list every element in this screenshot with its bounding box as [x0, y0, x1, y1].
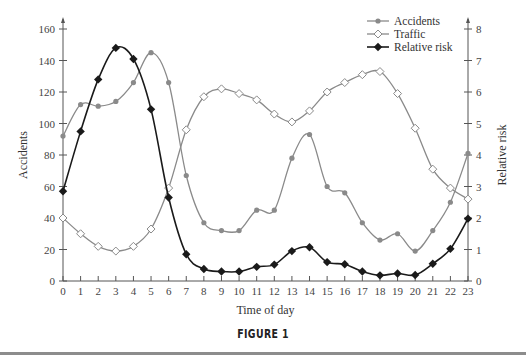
- x-tick-label: 7: [184, 285, 190, 297]
- x-tick-label: 4: [131, 285, 137, 297]
- left-y-tick-label: 60: [44, 181, 56, 193]
- x-tick-label: 0: [60, 285, 66, 297]
- figure-caption: FIGURE 1: [58, 327, 468, 341]
- risk-marker-icon: [59, 187, 67, 195]
- traffic-marker-icon: [147, 225, 155, 233]
- axes: 0123456789101112131415161718192021222302…: [39, 17, 483, 297]
- risk-marker-icon: [305, 243, 313, 251]
- risk-marker-icon: [411, 271, 419, 279]
- accidents-marker-icon: [289, 156, 294, 161]
- accidents-marker-icon: [325, 184, 330, 189]
- x-tick-label: 3: [113, 285, 119, 297]
- accidents-marker-icon: [113, 99, 118, 104]
- traffic-marker-icon: [288, 118, 296, 126]
- risk-marker-icon: [393, 269, 401, 277]
- x-tick-label: 9: [219, 285, 225, 297]
- traffic-marker-icon: [411, 124, 419, 132]
- risk-marker-icon: [129, 55, 137, 63]
- accidents-marker-icon: [254, 208, 259, 213]
- traffic-marker-icon: [464, 195, 472, 203]
- accidents-marker-icon: [395, 231, 400, 236]
- legend-label: Traffic: [394, 28, 425, 40]
- series-line: [63, 47, 468, 276]
- x-tick-label: 18: [374, 285, 386, 297]
- traffic-marker-icon: [129, 242, 137, 250]
- x-tick-label: 16: [339, 285, 351, 297]
- left-y-tick-label: 80: [44, 149, 56, 161]
- accidents-marker-icon: [342, 190, 347, 195]
- series-traffic: [59, 68, 472, 256]
- traffic-marker-icon: [182, 126, 190, 134]
- right-y-tick-label: 7: [476, 55, 482, 67]
- traffic-marker-icon: [358, 71, 366, 79]
- traffic-marker-icon: [429, 165, 437, 173]
- risk-marker-icon: [147, 105, 155, 113]
- x-tick-label: 8: [201, 285, 207, 297]
- accidents-marker-icon: [78, 102, 83, 107]
- risk-marker-icon: [464, 214, 472, 222]
- traffic-marker-icon: [217, 85, 225, 93]
- left-y-tick-label: 40: [44, 212, 56, 224]
- series-line: [63, 53, 468, 251]
- x-tick-label: 2: [95, 285, 101, 297]
- accidents-marker-icon: [430, 228, 435, 233]
- risk-marker-icon: [358, 267, 366, 275]
- traffic-marker-icon: [112, 247, 120, 255]
- risk-marker-icon: [182, 250, 190, 258]
- series-accidents: [60, 50, 470, 254]
- accidents-marker-icon: [413, 248, 418, 253]
- risk-marker-icon: [76, 127, 84, 135]
- right-y-tick-label: 4: [476, 149, 482, 161]
- risk-marker-icon: [235, 267, 243, 275]
- x-tick-label: 12: [269, 285, 280, 297]
- right-axis-arrow-icon: [466, 17, 470, 23]
- right-y-tick-label: 1: [476, 244, 482, 256]
- legend: AccidentsTrafficRelative risk: [367, 15, 453, 53]
- x-tick-label: 21: [427, 285, 438, 297]
- traffic-marker-icon: [253, 96, 261, 104]
- risk-marker-icon: [374, 43, 382, 51]
- accidents-marker-icon: [307, 132, 312, 137]
- x-tick-label: 1: [78, 285, 84, 297]
- series-relative-risk: [59, 44, 472, 280]
- x-tick-label: 17: [357, 285, 369, 297]
- legend-label: Relative risk: [394, 41, 453, 53]
- x-axis-title: Time of day: [236, 303, 294, 317]
- right-y-axis-title: Relative risk: [495, 125, 509, 186]
- risk-marker-icon: [200, 265, 208, 273]
- left-y-tick-label: 140: [39, 55, 56, 67]
- left-y-axis-title: Accidents: [16, 131, 30, 179]
- left-y-tick-label: 100: [39, 118, 56, 130]
- series-line: [63, 70, 468, 251]
- right-y-tick-label: 3: [476, 181, 482, 193]
- accidents-marker-icon: [377, 237, 382, 242]
- right-y-tick-label: 2: [476, 212, 482, 224]
- accidents-marker-icon: [272, 208, 277, 213]
- accidents-marker-icon: [448, 200, 453, 205]
- accidents-marker-icon: [96, 104, 101, 109]
- left-y-tick-label: 120: [39, 86, 56, 98]
- left-y-tick-label: 20: [44, 244, 56, 256]
- accidents-marker-icon: [166, 80, 171, 85]
- x-tick-label: 14: [304, 285, 316, 297]
- traffic-marker-icon: [374, 30, 382, 38]
- accidents-marker-icon: [60, 134, 65, 139]
- accidents-marker-icon: [465, 151, 470, 156]
- line-chart: 0123456789101112131415161718192021222302…: [0, 0, 526, 355]
- accidents-marker-icon: [236, 228, 241, 233]
- x-tick-label: 6: [166, 285, 172, 297]
- x-tick-label: 11: [251, 285, 262, 297]
- traffic-marker-icon: [341, 79, 349, 87]
- x-tick-label: 15: [322, 285, 334, 297]
- x-tick-label: 20: [410, 285, 422, 297]
- x-tick-label: 22: [445, 285, 456, 297]
- left-y-tick-label: 160: [39, 23, 56, 35]
- x-tick-label: 13: [286, 285, 298, 297]
- accidents-marker-icon: [148, 50, 153, 55]
- risk-marker-icon: [252, 263, 260, 271]
- risk-marker-icon: [217, 267, 225, 275]
- legend-label: Accidents: [394, 15, 441, 27]
- accidents-marker-icon: [375, 18, 380, 23]
- traffic-marker-icon: [235, 90, 243, 98]
- risk-marker-icon: [288, 247, 296, 255]
